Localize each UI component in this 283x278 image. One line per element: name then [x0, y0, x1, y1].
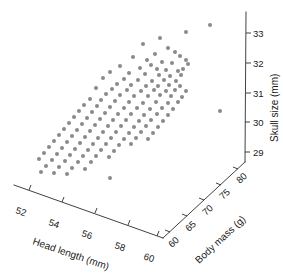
y-axis-tick-60	[165, 230, 170, 232]
data-point	[70, 166, 74, 170]
data-point	[118, 93, 122, 97]
data-point	[173, 88, 177, 92]
data-point	[152, 88, 156, 92]
data-point	[157, 73, 161, 77]
data-point	[155, 67, 159, 71]
data-point	[168, 74, 172, 78]
data-point	[131, 55, 135, 59]
data-point	[115, 82, 119, 86]
data-point	[176, 100, 180, 104]
x-tick-label-58: 58	[113, 239, 127, 253]
data-point	[81, 154, 85, 158]
data-point	[134, 136, 138, 140]
data-point	[57, 133, 61, 137]
data-point	[170, 61, 174, 65]
data-point	[94, 86, 98, 90]
data-point	[138, 66, 142, 70]
data-point	[90, 110, 94, 114]
data-point	[60, 146, 64, 150]
data-point	[124, 118, 128, 122]
data-point	[127, 71, 131, 75]
data-point	[176, 69, 180, 73]
x-tick-label-56: 56	[80, 227, 94, 241]
data-point	[169, 94, 173, 98]
data-point	[167, 83, 171, 87]
data-point	[178, 54, 182, 58]
data-point	[93, 123, 97, 127]
data-point	[139, 130, 143, 134]
data-point	[162, 78, 166, 82]
data-point	[88, 97, 92, 101]
data-point	[68, 153, 72, 157]
data-point	[122, 137, 126, 141]
data-point	[73, 147, 77, 151]
data-point	[136, 78, 140, 82]
data-point	[50, 158, 54, 162]
data-point	[62, 127, 66, 131]
data-point	[178, 84, 182, 88]
data-point	[47, 145, 51, 149]
data-point	[86, 148, 90, 152]
z-axis-title: Skull size (mm)	[269, 74, 280, 142]
data-point	[75, 128, 79, 132]
data-point	[108, 176, 112, 180]
data-point	[52, 139, 56, 143]
data-point	[65, 140, 69, 144]
data-point	[180, 95, 184, 99]
y-axis-tick-80	[233, 167, 238, 169]
data-point	[82, 103, 86, 107]
data-point	[156, 84, 160, 88]
data-point	[39, 170, 43, 174]
data-point	[83, 135, 87, 139]
data-point	[150, 79, 154, 83]
data-point	[160, 106, 164, 110]
data-point	[154, 100, 158, 104]
scatter-points-layer	[37, 23, 222, 180]
data-point	[132, 94, 136, 98]
scatter-plot-3d: 52 54 56 58 60 Head length (mm) 60 65 70…	[0, 0, 283, 278]
x-axis-title: Head length (mm)	[31, 235, 110, 271]
data-point	[161, 119, 165, 123]
data-point	[98, 117, 102, 121]
plot-canvas: 52 54 56 58 60 Head length (mm) 60 65 70…	[0, 0, 283, 278]
data-point	[113, 99, 117, 103]
data-point	[129, 83, 133, 87]
data-point	[132, 125, 136, 129]
data-point	[77, 109, 81, 113]
data-point	[137, 119, 141, 123]
data-point	[104, 92, 108, 96]
data-point	[135, 106, 139, 110]
data-point	[57, 165, 61, 169]
x-axis-tick-58	[128, 220, 130, 225]
y-axis-title: Body mass (g)	[193, 213, 248, 265]
y-axis-tick-65	[182, 214, 187, 216]
data-point	[110, 87, 114, 91]
z-axis-line	[245, 12, 246, 162]
y-tick-label-75: 75	[217, 186, 232, 201]
y-axis-group: 60 65 70 75 80 Body mass (g)	[163, 162, 249, 265]
data-point	[122, 77, 126, 81]
data-point	[129, 112, 133, 116]
z-tick-label-32: 32	[253, 58, 264, 69]
data-point	[141, 101, 145, 105]
y-tick-label-70: 70	[200, 202, 215, 217]
data-point	[117, 143, 121, 147]
data-point	[218, 109, 222, 113]
data-point	[184, 30, 188, 34]
data-point	[70, 134, 74, 138]
z-tick-label-30: 30	[253, 117, 264, 128]
data-point	[72, 115, 76, 119]
data-point	[151, 131, 155, 135]
data-point	[184, 89, 188, 93]
data-point	[89, 160, 93, 164]
data-point	[78, 141, 82, 145]
data-point	[99, 98, 103, 102]
y-tick-label-80: 80	[234, 170, 249, 185]
data-point	[143, 72, 147, 76]
z-tick-label-29: 29	[253, 147, 264, 158]
data-point	[144, 84, 148, 88]
data-point	[42, 151, 46, 155]
data-point	[91, 142, 95, 146]
data-point	[148, 107, 152, 111]
data-point	[99, 148, 103, 152]
